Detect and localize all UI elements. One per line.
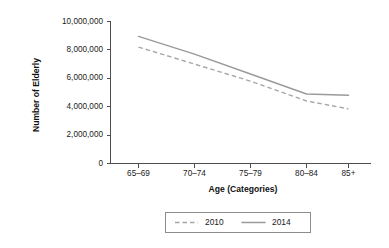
x-tick-label-70-74: 70–74 [183,169,206,178]
legend-label-2014: 2014 [272,217,291,227]
y-tick-label-2000000: 2,000,000 [67,130,104,139]
x-tick-label-80-84: 80–84 [295,169,318,178]
y-axis-title: Number of Elderly [31,58,41,132]
x-axis-title: Age (Categories) [209,184,278,194]
chart-legend: 2010 2014 [166,213,311,233]
y-tick-label-10000000: 10,000,000 [62,17,103,26]
y-tick-label-8000000: 8,000,000 [67,45,104,54]
x-tick-label-65-69: 65–69 [127,169,150,178]
legend-label-2010: 2010 [205,217,224,227]
x-tick-label-85plus: 85+ [342,169,356,178]
x-tick-label-75-79: 75–79 [239,169,262,178]
line-chart: Number of Elderly 10,000,000 8,000,000 6… [0,0,389,248]
y-tick-label-6000000: 6,000,000 [67,73,104,82]
y-tick-label-4000000: 4,000,000 [67,102,104,111]
y-tick-label-0: 0 [98,159,103,168]
chart-container: Number of Elderly 10,000,000 8,000,000 6… [0,0,389,248]
chart-background [0,0,389,248]
